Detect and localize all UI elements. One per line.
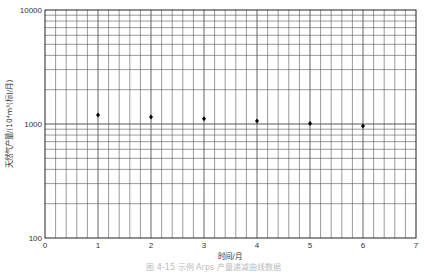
- data-point-marker: [202, 116, 206, 121]
- y-axis-ticks: 100100010000: [20, 6, 43, 243]
- y-tick-label: 1000: [24, 120, 42, 129]
- data-point-marker: [96, 112, 100, 117]
- grid-lines: [45, 10, 416, 238]
- x-tick-label: 2: [149, 241, 154, 250]
- data-point-marker: [255, 119, 259, 124]
- y-tick-label: 100: [29, 234, 43, 243]
- data-point-marker: [149, 115, 153, 120]
- x-tick-label: 7: [414, 241, 419, 250]
- data-points: [96, 112, 365, 128]
- x-tick-label: 4: [255, 241, 260, 250]
- semilog-scatter-chart: 01234567 100100010000 时间/月 天然气产量/(10⁴m³(…: [0, 0, 427, 274]
- data-point-marker: [308, 121, 312, 126]
- x-tick-label: 1: [96, 241, 101, 250]
- x-tick-label: 6: [361, 241, 366, 250]
- x-tick-label: 3: [202, 241, 207, 250]
- y-axis-label: 天然气产量/(10⁴m³(标)/月): [4, 80, 14, 169]
- x-tick-label: 5: [308, 241, 313, 250]
- figure-caption: 图 4-15 示例 Arps 产量递减曲线数据: [0, 261, 427, 272]
- x-tick-label: 0: [43, 241, 48, 250]
- x-axis-ticks: 01234567: [43, 241, 419, 250]
- y-tick-label: 10000: [20, 6, 43, 15]
- x-axis-label: 时间/月: [218, 251, 242, 261]
